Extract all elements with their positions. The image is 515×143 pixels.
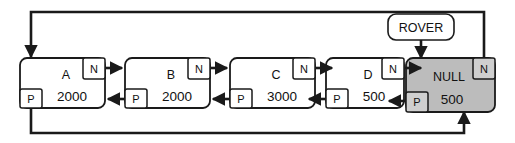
node-value: 2000 [57, 89, 87, 104]
bottom-loop-arrow [31, 108, 464, 133]
linked-list-diagram: ROVER A 2000 N P B 2000 N P C 3000 [0, 0, 515, 143]
prev-slot-label: P [132, 93, 139, 105]
node-name: C [271, 68, 280, 82]
rover-label: ROVER [399, 21, 443, 35]
diagram-canvas: ROVER A 2000 N P B 2000 N P C 3000 [0, 0, 515, 143]
node-b: B 2000 N P [125, 58, 210, 108]
node-value: 500 [441, 92, 464, 107]
prev-slot-label: P [237, 93, 244, 105]
next-slot-label: N [480, 63, 488, 75]
prev-slot-label: P [333, 93, 340, 105]
head-to-tail-loop [31, 108, 464, 133]
node-c: C 3000 N P [230, 58, 315, 108]
next-slot-label: N [300, 63, 308, 75]
node-value: 3000 [267, 89, 297, 104]
node-name: NULL [433, 70, 465, 84]
next-slot-label: N [195, 63, 203, 75]
node-value: 2000 [162, 89, 192, 104]
next-slot-label: N [389, 63, 397, 75]
node-value: 500 [363, 89, 386, 104]
node-null: NULL 500 N P [406, 58, 495, 112]
rover-pointer: ROVER [388, 14, 454, 58]
prev-slot-label: P [27, 93, 34, 105]
next-slot-label: N [90, 63, 98, 75]
node-name: D [363, 68, 372, 82]
prev-slot-label: P [413, 96, 420, 108]
node-name: A [62, 68, 71, 82]
node-name: B [167, 68, 175, 82]
node-a: A 2000 N P [20, 58, 105, 108]
